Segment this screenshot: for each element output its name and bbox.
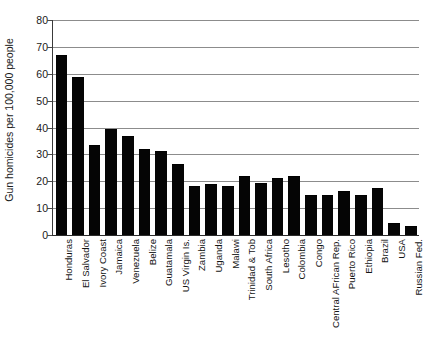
bar (89, 145, 101, 235)
x-label-slot: Ivory Coast (85, 237, 102, 357)
bar (272, 178, 284, 235)
y-axis-title-text: Gun homicides per 100,000 people (3, 38, 15, 201)
bar-slot (353, 20, 370, 235)
x-label-slot: Zambia (185, 237, 202, 357)
plot-area (52, 20, 419, 236)
bar-slot (336, 20, 353, 235)
bar-slot (169, 20, 186, 235)
bar (405, 226, 417, 235)
bar (205, 184, 217, 235)
bar (255, 183, 267, 235)
bar (56, 55, 68, 235)
bar-slot (319, 20, 336, 235)
x-tick-label: Russian Fed. (414, 239, 424, 296)
y-axis-title: Gun homicides per 100,000 people (0, 0, 18, 240)
x-label-slot: Guatamala (152, 237, 169, 357)
bar (355, 195, 367, 235)
x-label-slot: Venezuela (119, 237, 136, 357)
x-label-slot: Lesotho (268, 237, 285, 357)
bar-slot (153, 20, 170, 235)
bar (72, 77, 84, 235)
bar-slot (402, 20, 419, 235)
x-label-slot: Russian Fed. (401, 237, 418, 357)
bar-slot (236, 20, 253, 235)
y-axis-tick-labels: 01020304050607080 (18, 0, 52, 359)
bar (189, 186, 201, 235)
x-label-slot: US Virgin Is. (168, 237, 185, 357)
bar (322, 195, 334, 235)
bar-series (53, 20, 419, 235)
x-label-slot: Brazil (368, 237, 385, 357)
x-label-slot: Jamaica (102, 237, 119, 357)
bar-slot (136, 20, 153, 235)
bar-slot (70, 20, 87, 235)
bar-slot (269, 20, 286, 235)
bar (372, 188, 384, 235)
bar-slot (219, 20, 236, 235)
x-label-slot: Belize (135, 237, 152, 357)
x-axis-category-labels: HondurasEl SalvadorIvory CoastJamaicaVen… (52, 237, 418, 357)
bar (239, 176, 251, 235)
x-label-slot: Central AFrican Rep. (318, 237, 335, 357)
x-label-slot: Uganda (202, 237, 219, 357)
bar-slot (120, 20, 137, 235)
x-label-slot: Ethiopia (352, 237, 369, 357)
bar (288, 176, 300, 235)
bar-slot (369, 20, 386, 235)
x-label-slot: Malawi (218, 237, 235, 357)
x-label-slot: El Salvador (69, 237, 86, 357)
bar-slot (203, 20, 220, 235)
x-label-slot: Colombia (285, 237, 302, 357)
x-label-slot: Honduras (52, 237, 69, 357)
bar (122, 136, 134, 235)
gun-homicides-bar-chart-figure: Gun homicides per 100,000 people 0102030… (0, 0, 424, 359)
x-label-slot: Trinidad & Tob (235, 237, 252, 357)
bar-slot (86, 20, 103, 235)
bar (139, 149, 151, 235)
x-label-slot: South Africa (252, 237, 269, 357)
bar-slot (386, 20, 403, 235)
bar-slot (53, 20, 70, 235)
x-label-slot: Congo (302, 237, 319, 357)
x-label-slot: Puerto Rico (335, 237, 352, 357)
bar (155, 151, 167, 235)
bar-slot (186, 20, 203, 235)
bar (172, 164, 184, 235)
bar-slot (253, 20, 270, 235)
bar (338, 191, 350, 235)
bar (105, 129, 117, 235)
bar (388, 223, 400, 235)
clipped-title-strip (0, 0, 424, 5)
bar-slot (103, 20, 120, 235)
x-label-slot: USA (385, 237, 402, 357)
bar (222, 186, 234, 235)
bar-slot (303, 20, 320, 235)
bar-slot (286, 20, 303, 235)
bar (305, 195, 317, 235)
